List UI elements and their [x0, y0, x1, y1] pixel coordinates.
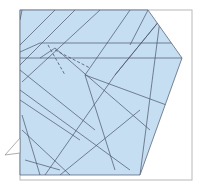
- flap-triangle: [5, 138, 20, 155]
- origami-diagram: [0, 0, 200, 187]
